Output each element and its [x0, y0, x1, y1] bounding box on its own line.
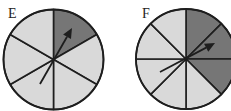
spinner-e-label: E: [8, 7, 17, 21]
spinners-diagram: [0, 0, 231, 111]
spinner-f: [136, 9, 231, 109]
spinner-e: [3, 10, 103, 110]
spinner-f-label: F: [142, 7, 150, 21]
